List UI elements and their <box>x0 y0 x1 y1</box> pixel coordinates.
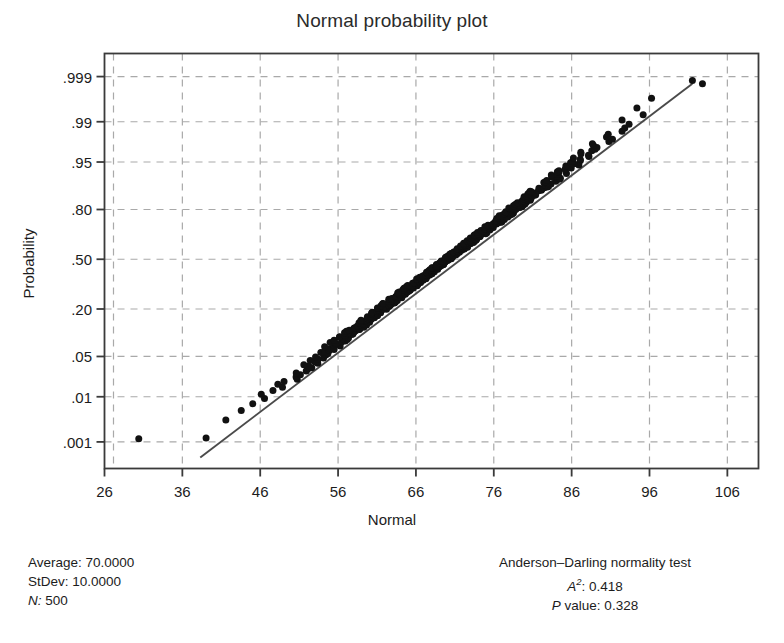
y-axis-title: Probability <box>20 174 37 354</box>
x-tick-label: 66 <box>408 483 425 500</box>
a-squared-value: : 0.418 <box>582 579 623 594</box>
x-axis-title: Normal <box>0 511 784 528</box>
gridlines-group <box>105 54 759 469</box>
n-value: 500 <box>45 593 68 608</box>
p-value-line: P value: 0.328 <box>430 596 760 615</box>
x-tick-label: 26 <box>96 483 113 500</box>
x-tick-label: 56 <box>330 483 347 500</box>
plot-canvas <box>0 0 784 643</box>
normality-test-results: Anderson–Darling normality test A2: 0.41… <box>430 553 760 615</box>
a-squared-label: A <box>567 579 576 594</box>
x-tick-label: 96 <box>641 483 658 500</box>
stdev-label: StDev: <box>28 574 69 589</box>
test-title: Anderson–Darling normality test <box>430 553 760 572</box>
n-line: N: 500 <box>28 591 134 610</box>
n-label: N: <box>28 593 42 608</box>
a-squared-line: A2: 0.418 <box>430 572 760 596</box>
stdev-value: 10.0000 <box>72 574 121 589</box>
x-tick-label: 86 <box>563 483 580 500</box>
average-line: Average: 70.0000 <box>28 553 134 572</box>
x-tick-label: 76 <box>485 483 502 500</box>
average-value: 70.0000 <box>86 555 135 570</box>
tick-marks-group <box>97 77 728 477</box>
x-tick-label: 46 <box>252 483 269 500</box>
y-tick-label: .99 <box>30 113 92 130</box>
normal-probability-plot-figure: Normal probability plot 2636465666768696… <box>0 0 784 643</box>
y-tick-label: .001 <box>30 433 92 450</box>
y-tick-label: .20 <box>30 300 92 317</box>
x-tick-label: 36 <box>174 483 191 500</box>
stdev-line: StDev: 10.0000 <box>28 572 134 591</box>
y-tick-label: .01 <box>30 388 92 405</box>
y-tick-label: .95 <box>30 154 92 171</box>
reference-line <box>200 84 692 458</box>
summary-statistics: Average: 70.0000 StDev: 10.0000 N: 500 <box>28 553 134 610</box>
x-tick-label: 106 <box>715 483 740 500</box>
plot-frame <box>105 54 759 469</box>
average-label: Average: <box>28 555 82 570</box>
y-tick-label: .50 <box>30 251 92 268</box>
p-value-label: P <box>552 598 561 613</box>
y-tick-label: .05 <box>30 348 92 365</box>
p-value-text: value: 0.328 <box>561 598 638 613</box>
y-tick-label: .80 <box>30 201 92 218</box>
y-tick-label: .999 <box>30 68 92 85</box>
